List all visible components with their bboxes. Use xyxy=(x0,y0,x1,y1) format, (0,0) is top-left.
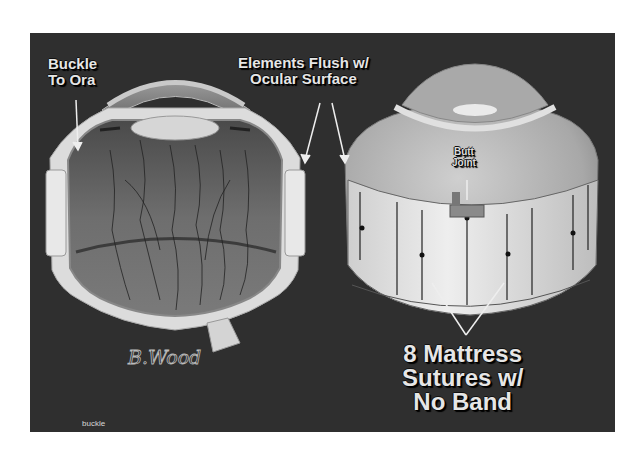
label-line: To Ora xyxy=(48,72,97,88)
eye-external-view xyxy=(345,64,598,315)
label-line: Ocular Surface xyxy=(238,71,369,87)
label-butt-joint: Butt Joint xyxy=(452,147,476,168)
butt-joint xyxy=(450,205,484,217)
label-line: Joint xyxy=(452,158,476,169)
lens xyxy=(131,116,219,140)
eye-cross-section xyxy=(46,83,305,353)
label-buckle-to-ora: Buckle To Ora xyxy=(48,56,97,88)
buckle-element-right xyxy=(285,170,305,256)
label-line: No Band xyxy=(402,390,523,414)
optic-nerve xyxy=(207,318,240,352)
label-line: Elements Flush w/ xyxy=(238,55,369,71)
arrow-flush-right xyxy=(332,103,345,160)
caption: buckle xyxy=(82,419,105,428)
artist-signature: B.Wood xyxy=(127,346,201,368)
vitreous-cavity xyxy=(68,120,282,316)
label-line: Sutures w/ xyxy=(402,366,523,390)
label-elements-flush: Elements Flush w/ Ocular Surface xyxy=(238,55,369,87)
buckle-element-left xyxy=(46,170,66,256)
arrow-flush-left xyxy=(305,103,320,160)
label-mattress-sutures: 8 Mattress Sutures w/ No Band xyxy=(402,342,523,414)
label-line: Buckle xyxy=(48,56,97,72)
label-line: Butt xyxy=(452,147,476,158)
label-line: 8 Mattress xyxy=(402,342,523,366)
